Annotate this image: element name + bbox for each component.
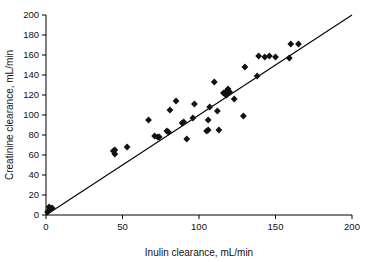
x-tick-label-200: 200	[344, 221, 360, 232]
y-tick-label-100: 100	[23, 109, 39, 120]
data-point	[295, 41, 302, 48]
y-tick-label-80: 80	[28, 129, 39, 140]
data-point	[215, 127, 222, 134]
y-tick-label-20: 20	[28, 189, 39, 200]
data-point	[240, 113, 247, 120]
data-point	[167, 107, 174, 114]
y-tick-label-180: 180	[23, 29, 39, 40]
line-of-identity	[46, 15, 352, 215]
data-point	[183, 136, 190, 143]
x-axis-title: Inulin clearance, mL/min	[145, 247, 253, 258]
x-tick-label-50: 50	[117, 221, 128, 232]
chart-canvas: 020406080100120140160180200 050100150200…	[0, 0, 373, 262]
data-point	[272, 54, 279, 61]
data-point	[255, 53, 262, 60]
data-point	[145, 117, 152, 124]
data-point	[266, 53, 273, 60]
data-point	[211, 79, 218, 86]
y-axis-title: Creatinine clearance, mL/min	[4, 50, 15, 180]
x-tick-label-0: 0	[43, 221, 48, 232]
data-point	[242, 64, 249, 71]
y-tick-label-120: 120	[23, 89, 39, 100]
data-point	[214, 108, 221, 115]
x-axis-ticks	[46, 215, 352, 219]
y-axis-ticks	[42, 15, 46, 215]
data-points-group	[44, 41, 302, 216]
data-point	[173, 98, 180, 105]
y-tick-label-60: 60	[28, 149, 39, 160]
y-tick-label-140: 140	[23, 69, 39, 80]
data-point	[205, 117, 212, 124]
y-tick-label-200: 200	[23, 9, 39, 20]
data-point	[191, 101, 198, 108]
y-tick-label-160: 160	[23, 49, 39, 60]
x-tick-labels: 050100150200	[43, 221, 360, 232]
y-tick-label-40: 40	[28, 169, 39, 180]
y-tick-labels: 020406080100120140160180200	[23, 9, 39, 220]
x-tick-label-150: 150	[268, 221, 284, 232]
data-point	[287, 41, 294, 48]
scatter-chart-figure: 020406080100120140160180200 050100150200…	[0, 0, 373, 262]
data-point	[231, 96, 238, 103]
data-point	[124, 144, 131, 151]
x-tick-label-100: 100	[191, 221, 207, 232]
y-tick-label-0: 0	[34, 209, 39, 220]
data-point	[286, 55, 293, 62]
